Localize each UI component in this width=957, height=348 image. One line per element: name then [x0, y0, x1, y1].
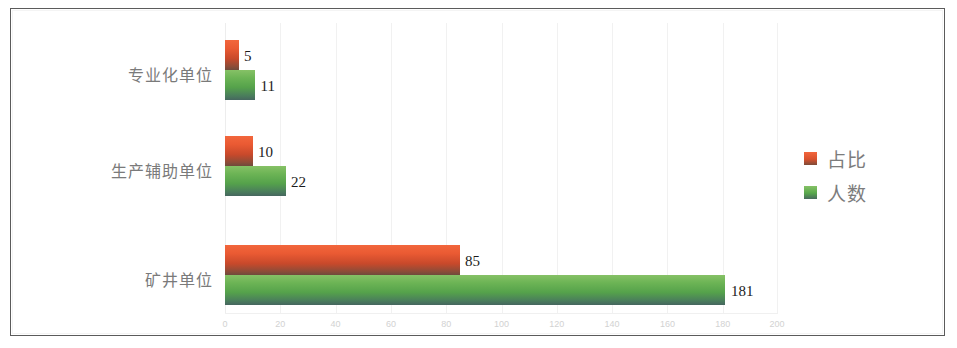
plot-area: 专业化单位 5 11 生产辅助单位 10 22 矿井单位 85 181 — [225, 23, 778, 314]
x-tick-0: 0 — [222, 319, 227, 329]
chart-frame: 专业化单位 5 11 生产辅助单位 10 22 矿井单位 85 181 — [10, 8, 945, 336]
bar-kuangjing-zhanbi[interactable] — [225, 245, 460, 275]
category-label-shengchan: 生产辅助单位 — [111, 158, 213, 182]
bar-value-kuangjing-renshu: 181 — [731, 284, 754, 299]
bar-zhuanyehua-zhanbi[interactable] — [225, 40, 239, 70]
bar-value-shengchan-renshu: 22 — [291, 175, 306, 190]
x-tick-120: 120 — [549, 319, 564, 329]
legend-swatch-icon-renshu — [804, 186, 817, 199]
legend-item-renshu[interactable]: 人数 — [804, 175, 924, 209]
bar-zhuanyehua-renshu[interactable] — [225, 70, 255, 100]
x-tick-100: 100 — [494, 319, 509, 329]
bar-group-zhuanyehua: 专业化单位 5 11 — [225, 40, 778, 100]
x-tick-80: 80 — [441, 319, 451, 329]
category-label-zhuanyehua: 专业化单位 — [128, 62, 213, 86]
bar-value-zhuanyehua-renshu: 11 — [261, 79, 275, 94]
bar-group-kuangjing: 矿井单位 85 181 — [225, 245, 778, 305]
bar-shengchan-zhanbi[interactable] — [225, 136, 253, 166]
legend-item-zhanbi[interactable]: 占比 — [804, 141, 924, 175]
x-tick-20: 20 — [275, 319, 285, 329]
legend-label-zhanbi: 占比 — [827, 145, 867, 172]
x-tick-200: 200 — [769, 319, 784, 329]
x-tick-160: 160 — [660, 319, 675, 329]
bar-value-kuangjing-zhanbi: 85 — [465, 254, 480, 269]
x-axis-line — [225, 313, 778, 314]
bar-chart: 专业化单位 5 11 生产辅助单位 10 22 矿井单位 85 181 — [11, 9, 946, 335]
bar-group-shengchan: 生产辅助单位 10 22 — [225, 136, 778, 196]
bar-value-zhuanyehua-zhanbi: 5 — [244, 49, 252, 64]
chart-legend: 占比 人数 — [804, 141, 924, 209]
category-label-kuangjing: 矿井单位 — [145, 267, 213, 291]
legend-swatch-icon-zhanbi — [804, 152, 817, 165]
x-tick-140: 140 — [605, 319, 620, 329]
bar-value-shengchan-zhanbi: 10 — [258, 145, 273, 160]
bar-kuangjing-renshu[interactable] — [225, 275, 725, 305]
x-tick-60: 60 — [386, 319, 396, 329]
bar-shengchan-renshu[interactable] — [225, 166, 286, 196]
legend-label-renshu: 人数 — [827, 179, 867, 206]
x-axis: 0 20 40 60 80 100 120 140 160 180 200 — [225, 319, 778, 337]
x-tick-40: 40 — [331, 319, 341, 329]
x-tick-180: 180 — [715, 319, 730, 329]
